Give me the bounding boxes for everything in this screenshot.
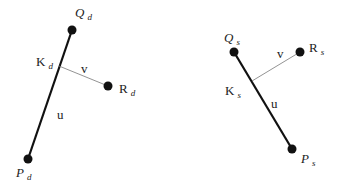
- diagram-canvas: [0, 0, 341, 186]
- label-u-s: u: [271, 97, 278, 110]
- label-q-s: Qs: [224, 31, 240, 47]
- point-q-d: [68, 26, 77, 35]
- segment-u-right: [234, 52, 292, 149]
- point-r-s: [296, 48, 305, 57]
- label-u-d: u: [57, 108, 64, 121]
- label-v-s: v: [277, 47, 284, 60]
- label-p-s: Ps: [301, 152, 315, 168]
- point-p-s: [288, 145, 297, 154]
- label-k-s: Ks: [225, 84, 241, 100]
- label-r-d: Rd: [119, 82, 135, 98]
- point-r-d: [104, 82, 113, 91]
- segment-v-right: [252, 52, 300, 81]
- point-p-d: [24, 155, 33, 164]
- label-k-d: Kd: [36, 55, 53, 71]
- label-p-d: Pd: [16, 166, 31, 182]
- label-q-d: Qd: [75, 6, 92, 22]
- segment-u-left: [28, 30, 72, 159]
- label-v-d: v: [81, 62, 88, 75]
- point-q-s: [230, 48, 239, 57]
- label-r-s: Rs: [309, 41, 324, 57]
